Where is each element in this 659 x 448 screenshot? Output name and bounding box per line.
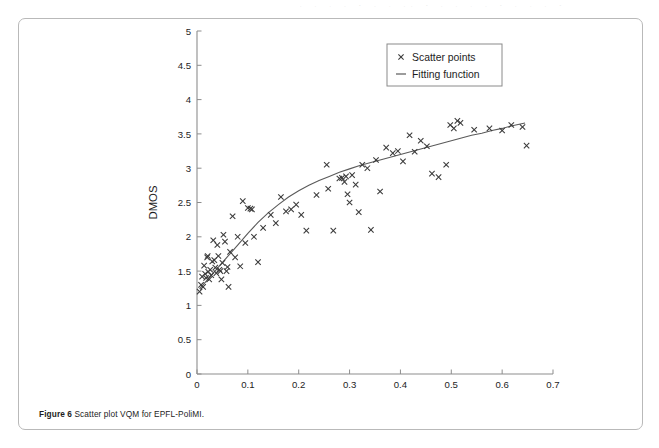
scatter-marker [368,227,373,232]
plot-area: 00.10.20.30.40.50.60.7 00.511.522.533.54… [19,19,644,394]
scatter-marker [471,127,476,132]
scatter-marker [400,159,405,164]
scatter-marker [331,228,336,233]
scatter-marker [424,144,429,149]
scatter-marker [451,126,456,131]
x-tick-label: 0.5 [445,379,458,390]
figure-caption-label: Figure 6 [39,409,72,419]
scatter-marker [273,220,278,225]
y-tick-label: 1 [186,300,191,311]
scatter-marker [324,162,329,167]
scatter-marker [383,145,388,150]
scan-artifact: . . , . - . , .. - . . , . - . , . - [300,2,650,7]
scatter-marker [232,255,237,260]
x-tick-label: 0 [194,379,199,390]
scatter-marker [201,263,206,268]
scatter-marker [365,166,370,171]
scatter-marker [353,182,358,187]
scatter-marker [243,240,248,245]
x-axis-ticks: 00.10.20.30.40.50.60.7 [194,370,559,391]
scatter-marker [293,202,298,207]
scatter-marker [390,150,395,155]
scatter-marker [349,172,354,177]
scatter-marker [377,189,382,194]
scatter-marker [235,234,240,239]
scatter-marker [412,149,417,154]
y-tick-label: 3.5 [178,129,191,140]
figure-container: 00.10.20.30.40.50.60.7 00.511.522.533.54… [18,18,643,430]
y-tick-label: 3 [186,163,191,174]
y-tick-label: 2 [186,231,191,242]
y-tick-label: 4 [186,94,192,105]
scatter-marker [216,253,221,258]
y-tick-label: 2.5 [178,197,191,208]
figure-caption-text: Scatter plot VQM for EPFL-PoliMI. [74,409,204,419]
scatter-marker [299,212,304,217]
scatter-marker [220,260,225,265]
scatter-marker [251,234,256,239]
y-tick-label: 0 [186,369,191,380]
x-tick-label: 0.6 [495,379,508,390]
axis-labels: VQMDMOS [147,185,388,394]
scatter-marker [343,174,348,179]
scatter-marker [278,194,283,199]
scatter-points-group [197,118,529,294]
scatter-marker [524,143,529,148]
scatter-plot-svg: 00.10.20.30.40.50.60.7 00.511.522.533.54… [19,19,644,394]
scatter-marker [455,118,460,123]
x-tick-label: 0.7 [546,379,559,390]
scatter-marker [520,124,525,129]
scatter-marker [225,264,230,269]
scatter-marker [255,259,260,264]
scatter-marker [221,232,226,237]
y-tick-label: 4.5 [178,60,191,71]
scatter-marker [268,212,273,217]
scatter-marker [283,209,288,214]
scatter-marker [436,174,441,179]
scatter-marker [219,277,224,282]
y-axis-title: DMOS [147,185,159,220]
scatter-marker [314,192,319,197]
scatter-marker [226,284,231,289]
scatter-marker [356,209,361,214]
scatter-marker [395,148,400,153]
x-tick-label: 0.1 [241,379,254,390]
scatter-marker [418,138,423,143]
x-tick-label: 0.2 [292,379,305,390]
scatter-marker [345,192,350,197]
scatter-marker [288,207,293,212]
scatter-marker [240,198,245,203]
legend-box [387,44,502,86]
legend-entry-label: Fitting function [412,69,480,80]
scatter-marker [326,186,331,191]
y-tick-label: 1.5 [178,266,191,277]
y-axis-ticks: 00.511.522.533.544.55 [178,26,202,380]
scatter-marker [347,200,352,205]
scatter-marker [260,225,265,230]
scatter-marker [458,120,463,125]
scatter-marker [444,162,449,167]
y-tick-label: 5 [186,26,191,37]
scatter-marker [304,228,309,233]
y-tick-label: 0.5 [178,334,191,345]
legend-entry-label: Scatter points [412,52,476,63]
scatter-marker [373,157,378,162]
scatter-marker [429,171,434,176]
scatter-marker [487,126,492,131]
scatter-marker [222,239,227,244]
chart-legend[interactable]: Scatter pointsFitting function [387,44,502,86]
scatter-marker [238,264,243,269]
scatter-marker [230,214,235,219]
figure-caption: Figure 6 Scatter plot VQM for EPFL-PoliM… [39,409,204,419]
scatter-marker [197,289,202,294]
scatter-marker [208,267,213,272]
scatter-marker [407,133,412,138]
scatter-marker [215,242,220,247]
x-tick-label: 0.3 [343,379,356,390]
x-tick-label: 0.4 [394,379,408,390]
